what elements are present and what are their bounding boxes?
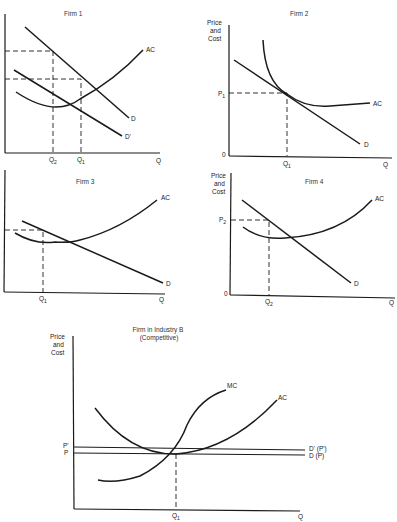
firm3-dash-q1 — [5, 230, 43, 292]
firm1-q1-label: Q1 — [77, 156, 85, 165]
firm2-dash-q1-p1 — [229, 93, 287, 156]
firm3-y-axis — [4, 170, 5, 292]
firm4-y-label-2: and — [214, 180, 225, 187]
firm1-d-prime-label: D' — [125, 133, 131, 140]
firm1-ac-curve — [16, 50, 143, 107]
firm4-panel: Firm 4 Price and Cost AC D P2 0 Q2 Q — [211, 172, 395, 307]
firm1-ac-label: AC — [146, 46, 155, 53]
firm3-ac-curve — [15, 200, 157, 243]
firm4-x-axis — [230, 295, 395, 298]
firm4-p2-label: P2 — [219, 216, 226, 225]
firm2-title: Firm 2 — [290, 10, 309, 17]
firm4-demand-d — [242, 200, 351, 283]
firm2-q-axis-label: Q — [383, 161, 388, 169]
firmB-subtitle: (Competitive) — [140, 334, 179, 342]
firm3-ac-label: AC — [161, 194, 170, 201]
firm2-d-label: D — [364, 141, 369, 148]
firmB-mc-label: MC — [227, 382, 237, 389]
firmB-title: Firm in Industry B — [133, 326, 184, 334]
firm3-x-axis — [4, 292, 165, 294]
firmB-q1-label: Q1 — [172, 512, 180, 521]
firmB-panel: Firm in Industry B (Competitive) Price a… — [50, 326, 327, 521]
firm4-d-label: D — [354, 280, 359, 287]
firm4-y-axis — [230, 173, 231, 295]
firmB-y-axis — [73, 336, 74, 509]
firmB-d-label: D (P) — [309, 452, 324, 460]
firm4-ac-curve — [243, 200, 372, 238]
firmB-x-axis — [74, 509, 300, 511]
firm2-ac-curve — [263, 40, 370, 106]
firm3-q-axis-label: Q — [159, 296, 164, 304]
firmB-demand-d-prime — [74, 447, 305, 450]
firm1-dash-q1 — [5, 79, 81, 153]
diagram-canvas: Firm 1 AC D D' Q2 Q1 Q Firm 2 Price and … — [0, 0, 397, 522]
firmB-ac-label: AC — [278, 394, 287, 401]
firmB-p-prime-label: P' — [63, 442, 69, 449]
firm2-panel: Firm 2 Price and Cost AC D P1 0 Q1 Q — [207, 10, 392, 169]
firm2-y-label-1: Price — [207, 19, 222, 26]
firm2-y-label-3: Cost — [208, 35, 222, 42]
firm3-panel: Firm 3 AC D Q1 Q — [4, 170, 171, 304]
firm1-dash-q2 — [5, 51, 53, 153]
firm2-ac-label: AC — [373, 100, 382, 107]
firm1-demand-d-prime — [14, 70, 122, 136]
firmB-y-label-2: and — [53, 341, 64, 348]
firm2-q1-label: Q1 — [283, 160, 291, 169]
firmB-demand-d — [74, 453, 305, 455]
firm2-origin-label: 0 — [222, 151, 226, 158]
firm1-d-label: D — [131, 115, 136, 122]
firmB-mc-curve — [98, 390, 226, 481]
firm1-title: Firm 1 — [64, 10, 83, 17]
firmB-p-label: P — [64, 449, 68, 456]
firm4-title: Firm 4 — [305, 178, 324, 185]
firm4-y-label-3: Cost — [212, 188, 226, 195]
firm1-q-axis-label: Q — [156, 157, 161, 165]
firm4-origin-label: 0 — [224, 290, 228, 297]
firm4-q2-label: Q2 — [265, 298, 273, 307]
firm3-d-label: D — [166, 280, 171, 287]
firm3-title: Firm 3 — [76, 178, 95, 185]
firmB-q-axis-label: Q — [298, 513, 303, 521]
firm1-q2-label: Q2 — [49, 156, 57, 165]
firm4-y-label-1: Price — [211, 172, 226, 179]
firm2-demand-d — [234, 60, 360, 144]
firm2-x-axis — [229, 156, 392, 158]
firm1-panel: Firm 1 AC D D' Q2 Q1 Q — [5, 10, 161, 165]
firm3-q1-label: Q1 — [39, 295, 47, 304]
firm2-p1-label: P1 — [218, 90, 225, 99]
firmB-y-label-3: Cost — [51, 349, 65, 356]
firmB-y-label-1: Price — [50, 333, 65, 340]
firm4-ac-label: AC — [375, 195, 384, 202]
firm2-y-label-2: and — [210, 27, 221, 34]
firm4-q-axis-label: Q — [389, 299, 394, 307]
